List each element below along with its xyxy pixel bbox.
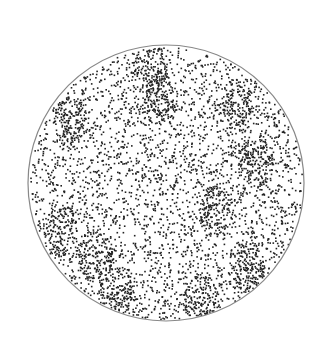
dot-field [30,47,303,320]
stipple-circle-figure [0,0,332,361]
